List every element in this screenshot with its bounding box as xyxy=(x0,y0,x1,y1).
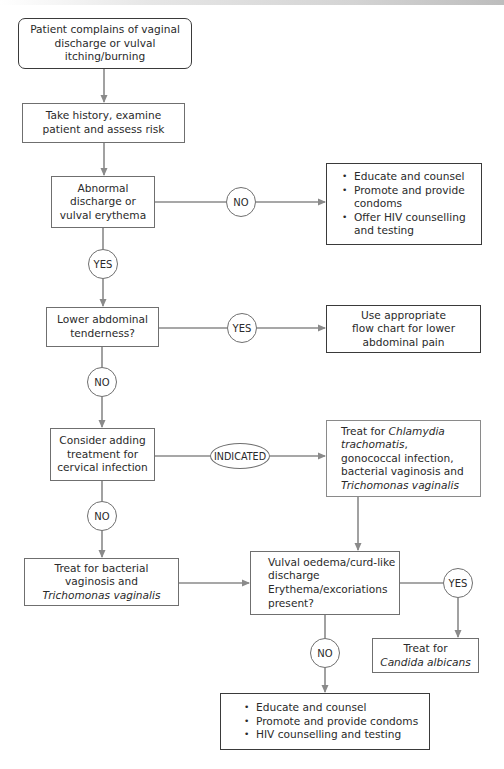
use-line-2: flow chart for lower xyxy=(352,322,455,336)
decision-consider-no: NO xyxy=(87,501,117,531)
bv-line-1: Treat for bacterial xyxy=(55,562,149,576)
treat-bv-box: Treat for bacterial vaginosis and Tricho… xyxy=(24,558,179,606)
decision-lower-yes: YES xyxy=(227,313,257,343)
candida-line-2: Candida albicans xyxy=(380,656,471,670)
educate-bottom-item: Promote and provide condoms xyxy=(243,715,429,729)
history-line-2: patient and assess risk xyxy=(43,123,165,137)
decision-vulval-no: NO xyxy=(310,638,340,668)
chlamydia-line-3: gonococcal infection, xyxy=(341,452,480,466)
consider-line-2: treatment for xyxy=(67,448,138,462)
decision-abnormal-yes: YES xyxy=(88,249,118,279)
treat-candida-box: Treat for Candida albicans xyxy=(372,638,479,673)
consider-cervical-box: Consider adding treatment for cervical i… xyxy=(50,428,155,481)
educate-bottom-item: Educate and counsel xyxy=(243,701,429,715)
start-line-1: Patient complains of vaginal xyxy=(30,23,180,37)
consider-line-3: cervical infection xyxy=(57,461,148,475)
start-box: Patient complains of vaginal discharge o… xyxy=(18,18,192,69)
start-line-3: itching/burning xyxy=(65,50,145,64)
start-line-2: discharge or vulval xyxy=(55,37,156,51)
consider-line-1: Consider adding xyxy=(59,434,145,448)
chlamydia-line-5: Trichomonas vaginalis xyxy=(341,479,480,493)
vulval-line-2: discharge xyxy=(268,569,399,583)
abnormal-line-2: discharge or xyxy=(70,195,136,209)
educate-bottom-item: HIV counselling and testing xyxy=(243,728,429,742)
abnormal-discharge-box: Abnormal discharge or vulval erythema xyxy=(51,176,155,228)
lower-abdominal-box: Lower abdominal tenderness? xyxy=(46,307,159,347)
educate-counsel-bottom-box: Educate and counsel Promote and provide … xyxy=(220,693,430,750)
chlamydia-line-4: bacterial vaginosis and xyxy=(341,465,480,479)
vulval-line-3: Erythema/excoriations xyxy=(268,583,399,597)
use-line-1: Use appropriate xyxy=(361,309,446,323)
treat-chlamydia-box: Treat for Chlamydia trachomatis, gonococ… xyxy=(326,420,481,497)
educate-top-item: Promote and provide condoms xyxy=(341,184,475,211)
chlamydia-line-1: Treat for Chlamydia xyxy=(341,425,480,439)
educate-counsel-top-box: Educate and counsel Promote and provide … xyxy=(326,163,482,245)
decision-consider-indicated: INDICATED xyxy=(210,443,270,469)
vulval-line-1: Vulval oedema/curd-like xyxy=(268,556,399,570)
educate-top-list: Educate and counsel Promote and provide … xyxy=(341,170,475,238)
educate-top-item: Educate and counsel xyxy=(341,170,475,184)
use-line-3: abdominal pain xyxy=(362,336,444,350)
history-line-1: Take history, examine xyxy=(46,109,162,123)
chlamydia-line-2: trachomatis, xyxy=(341,438,480,452)
use-flowchart-box: Use appropriate flow chart for lower abd… xyxy=(326,305,481,353)
bv-line-3: Trichomonas vaginalis xyxy=(43,589,161,603)
lower-line-1: Lower abdominal xyxy=(57,313,148,327)
decision-lower-no: NO xyxy=(87,367,117,397)
educate-bottom-list: Educate and counsel Promote and provide … xyxy=(243,701,429,742)
candida-line-1: Treat for xyxy=(403,642,447,656)
decision-vulval-yes: YES xyxy=(443,568,473,598)
educate-top-item: Offer HIV counselling and testing xyxy=(341,211,475,238)
abnormal-line-1: Abnormal xyxy=(77,182,128,196)
abnormal-line-3: vulval erythema xyxy=(60,209,146,223)
bv-line-2: vaginosis and xyxy=(65,575,138,589)
vulval-line-4: present? xyxy=(268,597,399,611)
decision-abnormal-no: NO xyxy=(226,187,256,217)
vulval-oedema-box: Vulval oedema/curd-like discharge Erythe… xyxy=(250,551,400,615)
history-box: Take history, examine patient and assess… xyxy=(22,103,185,143)
lower-line-2: tenderness? xyxy=(70,327,135,341)
